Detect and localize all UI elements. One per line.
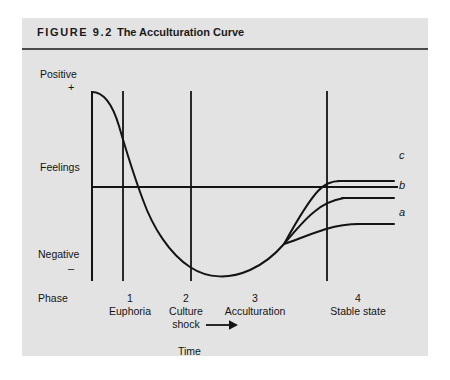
phase-3-cell: 3 Acculturation: [204, 292, 306, 318]
phase-4-number: 4: [310, 292, 406, 305]
phase-3-name: Acculturation: [204, 305, 306, 318]
chart-area: Positive + Feelings Negative – Phase 1 E…: [22, 48, 428, 356]
curve-label-b: b: [399, 179, 405, 191]
curve-a: [284, 224, 360, 244]
y-label-positive: Positive: [40, 68, 77, 80]
phase-1-cell: 1 Euphoria: [106, 292, 154, 318]
phase-4-cell: 4 Stable state: [310, 292, 406, 318]
y-label-positive-sign: +: [68, 81, 74, 93]
curve-b: [284, 198, 344, 244]
phase-1-number: 1: [106, 292, 154, 305]
main-acculturation-curve: [92, 92, 284, 276]
figure-title: FIGURE 9.2The Acculturation Curve: [37, 26, 244, 38]
y-label-negative-sign: –: [68, 262, 74, 274]
curve-label-a: a: [399, 206, 405, 218]
y-label-negative: Negative: [38, 248, 79, 260]
x-axis-label-time: Time: [178, 345, 201, 357]
figure-title-text: The Acculturation Curve: [117, 26, 244, 38]
figure-number: FIGURE 9.2: [37, 26, 113, 38]
phase-3-number: 3: [204, 292, 306, 305]
figure-panel: FIGURE 9.2The Acculturation Curve: [22, 18, 428, 356]
phase-row-label: Phase: [38, 292, 68, 304]
phase-2-name-line2: shock: [160, 318, 212, 331]
phase-1-name: Euphoria: [106, 305, 154, 318]
phase-4-name: Stable state: [310, 305, 406, 318]
curve-label-c: c: [399, 149, 405, 161]
y-label-feelings: Feelings: [40, 161, 80, 173]
